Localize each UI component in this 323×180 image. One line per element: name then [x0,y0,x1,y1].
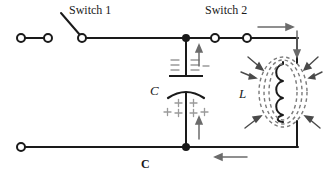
inductor-coil [276,62,283,122]
plus-sign [164,109,171,116]
circuit-schematic-canvas [0,0,323,180]
ground-label: C [141,157,150,172]
capacitor-top-current-arrow [196,45,202,66]
field-ellipse-outer [259,57,307,127]
field-arrow-mid-right [309,72,322,79]
inductor-label: L [239,86,246,102]
current-arrow-group [196,24,300,160]
plus-sign [201,109,208,116]
switch2-right-contact-icon[interactable] [243,34,251,42]
terminal-group [17,34,251,151]
top-node-junction-icon [182,34,190,42]
plus-sign [190,100,197,107]
bottom-current-arrow [215,154,247,160]
wire-group [25,38,298,147]
field-arrow-bottom-right [305,116,320,128]
capacitor-label: C [150,83,159,99]
left-terminal-outer-icon[interactable] [17,34,25,42]
left-terminal-inner-icon[interactable] [44,34,52,42]
magnetic-field-lines [259,57,307,127]
bottom-node-junction-icon [182,143,190,151]
field-ellipse-inner [269,64,297,120]
capacitor-negative-charges [171,60,209,70]
switch1-label: Switch 1 [69,3,111,18]
top-right-current-arrow [258,24,293,30]
bottom-left-terminal-icon[interactable] [17,143,25,151]
plus-sign [175,110,182,117]
field-arrow-top-left [248,57,263,70]
field-arrow-mid-left [241,72,256,79]
capacitor-bottom-current-arrow [196,117,202,139]
plus-sign [190,110,197,117]
plus-sign [175,100,182,107]
inductor-coil-path [276,62,283,122]
switch1-pivot-icon[interactable] [78,34,86,42]
field-arrow-bottom-left [245,116,261,128]
circuit-diagram: Switch 1 Switch 2 C L C [0,0,323,180]
right-side-current-arrow [294,31,300,57]
field-arrow-top-right [304,57,318,70]
switch2-label: Switch 2 [205,3,247,18]
switch2-left-contact-icon[interactable] [211,34,219,42]
field-collapse-arrows [241,57,322,128]
